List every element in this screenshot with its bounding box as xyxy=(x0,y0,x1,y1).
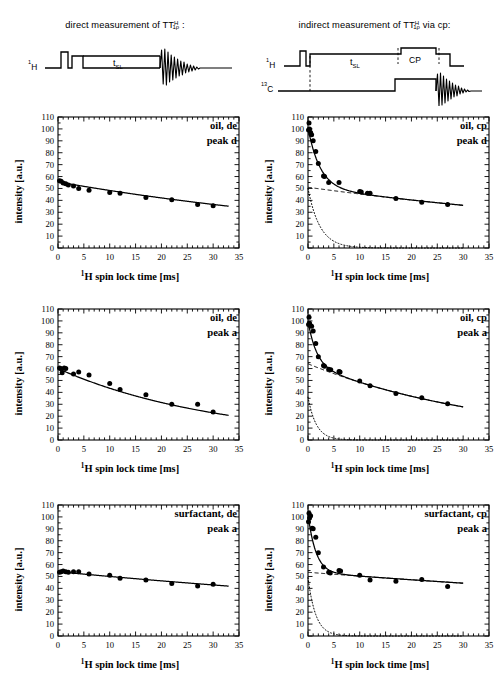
data-point xyxy=(338,569,343,574)
data-point xyxy=(313,341,318,346)
y-tick-label: 50 xyxy=(45,183,54,193)
y-tick-label: 110 xyxy=(41,112,54,122)
y-tick-label: 50 xyxy=(45,375,54,385)
data-point xyxy=(307,315,312,320)
y-tick-label: 60 xyxy=(45,560,54,570)
x-tick-label: 30 xyxy=(209,252,218,262)
plot-area: 010203040506070809010011005101520253035 xyxy=(0,300,249,465)
panel-surfactant-cp-peak-a: intensity [a.u.] 1H spin lock time [ms] … xyxy=(250,496,499,689)
x-tick-label: 30 xyxy=(459,444,468,454)
x-tick-label: 25 xyxy=(183,640,192,650)
data-point xyxy=(308,513,313,518)
x-tick-label: 10 xyxy=(105,640,114,650)
pulse-sequence-direct-svg: 1H tSL xyxy=(0,34,250,104)
data-point xyxy=(211,410,216,415)
data-point xyxy=(311,526,316,531)
plot-frame xyxy=(58,505,239,636)
pulse-sequence-indirect-svg: 1H 13C tSL CP xyxy=(250,34,499,106)
fit-curve xyxy=(308,128,463,206)
y-tick-label: 10 xyxy=(295,619,304,629)
x-tick-label: 35 xyxy=(485,640,494,650)
data-point xyxy=(368,191,373,196)
plot-frame xyxy=(308,505,489,636)
data-point xyxy=(107,573,112,578)
data-point xyxy=(76,370,81,375)
plot-area: 010203040506070809010011005101520253035 xyxy=(250,108,499,273)
y-tick-label: 80 xyxy=(45,340,54,350)
y-tick-label: 70 xyxy=(45,160,54,170)
data-point xyxy=(322,174,327,179)
y-tick-label: 100 xyxy=(41,512,54,522)
x-tick-label: 30 xyxy=(209,640,218,650)
x-tick-label: 25 xyxy=(183,444,192,454)
plot-area: 010203040506070809010011005101520253035 xyxy=(0,108,249,273)
x-tick-label: 35 xyxy=(485,252,494,262)
y-tick-label: 110 xyxy=(291,500,304,510)
x-tick-label: 10 xyxy=(105,444,114,454)
y-tick-label: 40 xyxy=(45,195,54,205)
data-point xyxy=(195,583,200,588)
x-tick-label: 20 xyxy=(407,252,416,262)
data-point xyxy=(143,578,148,583)
y-tick-label: 80 xyxy=(295,536,304,546)
pulse-sequence-direct: direct measurement of TTH1ρ : 1H tSL xyxy=(0,0,250,108)
data-point xyxy=(445,202,450,207)
data-point xyxy=(143,392,148,397)
x-tick-label: 10 xyxy=(355,252,364,262)
y-tick-label: 20 xyxy=(295,411,304,421)
y-tick-label: 60 xyxy=(45,172,54,182)
data-point xyxy=(338,370,343,375)
channel-label-13c: 13C xyxy=(261,81,273,94)
y-tick-label: 40 xyxy=(295,387,304,397)
pulse-sequence-indirect-cp: indirect measurement of TTH1ρ via cp: 1H… xyxy=(250,0,499,108)
data-point xyxy=(76,569,81,574)
data-point xyxy=(87,188,92,193)
y-tick-label: 90 xyxy=(45,328,54,338)
panel-oil-de-peak-a: intensity [a.u.] 1H spin lock time [ms] … xyxy=(0,300,249,493)
y-tick-label: 110 xyxy=(291,304,304,314)
y-tick-label: 50 xyxy=(45,571,54,581)
y-tick-label: 60 xyxy=(295,560,304,570)
x-tick-label: 15 xyxy=(381,444,390,454)
fit-curve xyxy=(58,572,229,586)
y-tick-label: 100 xyxy=(41,124,54,134)
data-point xyxy=(71,371,76,376)
x-tick-label: 5 xyxy=(332,640,336,650)
data-point xyxy=(309,324,314,329)
y-tick-label: 110 xyxy=(291,112,304,122)
plot-frame xyxy=(58,309,239,440)
y-tick-label: 20 xyxy=(45,411,54,421)
y-tick-label: 0 xyxy=(300,243,304,253)
x-tick-label: 5 xyxy=(332,252,336,262)
data-point xyxy=(195,402,200,407)
data-point xyxy=(309,132,314,137)
x-tick-label: 0 xyxy=(306,444,310,454)
x-tick-label: 35 xyxy=(235,444,244,454)
data-point xyxy=(393,579,398,584)
fit-curve xyxy=(308,321,463,407)
x-tick-label: 30 xyxy=(209,444,218,454)
y-tick-label: 70 xyxy=(295,548,304,558)
y-tick-label: 30 xyxy=(45,207,54,217)
data-point xyxy=(118,576,123,581)
data-point xyxy=(71,184,76,189)
y-tick-label: 80 xyxy=(295,148,304,158)
panel-oil-de-peak-d: intensity [a.u.] 1H spin lock time [ms] … xyxy=(0,108,249,301)
seq-title-post: via cp: xyxy=(420,20,450,30)
y-tick-label: 20 xyxy=(45,219,54,229)
data-point xyxy=(313,535,318,540)
channel-label-1h: 1H xyxy=(266,57,275,70)
x-tick-label: 15 xyxy=(381,252,390,262)
y-tick-label: 50 xyxy=(295,183,304,193)
x-tick-label: 30 xyxy=(459,252,468,262)
data-point xyxy=(307,120,312,125)
data-point xyxy=(60,370,65,375)
y-tick-label: 10 xyxy=(45,231,54,241)
plot-area: 010203040506070809010011005101520253035 xyxy=(250,300,499,465)
data-point xyxy=(419,395,424,400)
data-point xyxy=(66,570,71,575)
seq-title-sub: 1ρ xyxy=(172,24,179,30)
data-point xyxy=(76,186,81,191)
data-point xyxy=(87,572,92,577)
y-tick-label: 0 xyxy=(50,243,54,253)
